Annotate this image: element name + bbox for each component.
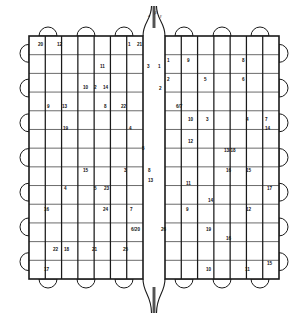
callout-number: 15	[246, 168, 252, 173]
callout-number: 7	[130, 207, 133, 212]
tab-left-6	[20, 218, 29, 236]
callout-number: 17	[44, 267, 50, 272]
callout-number: 22	[121, 104, 127, 109]
label-gamma: γ	[160, 13, 162, 18]
tab-right-5	[279, 183, 288, 201]
callout-number: 11	[186, 181, 191, 186]
callout-number: 5	[142, 146, 145, 151]
callout-number: 9	[47, 104, 50, 109]
callout-number: 4	[64, 186, 67, 191]
callout-number: 22	[53, 247, 59, 252]
tab-right-3	[279, 114, 288, 132]
callout-number: 19	[206, 227, 212, 232]
tab-right-2	[279, 79, 288, 97]
callout-number: 10	[83, 85, 89, 90]
callout-number: 14	[208, 198, 214, 203]
channel-top-left-wall	[143, 6, 152, 36]
callout-number: 13	[148, 178, 154, 183]
panels-layer	[29, 36, 279, 279]
callout-number: 20	[38, 42, 44, 47]
callout-number: 8	[242, 58, 245, 63]
callout-number: 17	[267, 186, 273, 191]
tab-left-1	[20, 44, 29, 62]
tab-left-5	[20, 183, 29, 201]
tab-right-4	[279, 149, 288, 167]
callout-number: 15	[83, 168, 89, 173]
callout-number: 6/7	[176, 104, 183, 109]
callout-number: 6/20	[131, 227, 140, 232]
tab-left-4	[20, 149, 29, 167]
tab-top-right-3	[251, 27, 269, 36]
tab-top-right-1	[175, 27, 193, 36]
callout-number: 25	[123, 247, 129, 252]
callout-number: 19	[63, 126, 69, 131]
tab-left-2	[20, 79, 29, 97]
callout-number: 21	[92, 247, 98, 252]
tab-right-1	[279, 44, 288, 62]
tab-top-right-2	[213, 27, 231, 36]
callout-number: 8	[104, 104, 107, 109]
callout-number: 14	[265, 126, 271, 131]
callout-number: 8	[148, 168, 151, 173]
left-panel-outline	[29, 36, 143, 279]
callout-number: 5	[94, 186, 97, 191]
callout-number: 13	[62, 104, 68, 109]
callout-number: 13/18	[224, 148, 236, 153]
tab-top-left-3	[115, 27, 133, 36]
callout-number: 12	[57, 42, 63, 47]
callout-number: 24	[103, 207, 109, 212]
callout-number: 5	[204, 77, 207, 82]
callout-number: 16	[226, 168, 232, 173]
callout-number: 23	[104, 186, 110, 191]
callout-number: 3	[147, 64, 150, 69]
right-panel-outline	[165, 36, 279, 279]
callout-number: 1	[128, 42, 131, 47]
callout-number: 2	[94, 85, 97, 90]
callout-number: 26	[161, 227, 167, 232]
tab-top-left-2	[77, 27, 95, 36]
center-channel-layer	[143, 6, 165, 313]
tab-bottom-right-3	[251, 279, 269, 288]
callout-number: 1	[158, 64, 161, 69]
tab-bottom-right-2	[213, 279, 231, 288]
tab-bottom-left-3	[115, 279, 133, 288]
callout-number: 3	[206, 117, 209, 122]
callout-number: 9	[187, 58, 190, 63]
callout-number: 7	[265, 117, 268, 122]
tab-right-7	[279, 253, 288, 271]
callout-number: 16	[44, 207, 50, 212]
callout-number: 4	[129, 126, 132, 131]
callout-number: 10	[188, 117, 194, 122]
tab-left-3	[20, 114, 29, 132]
callout-number: 11	[100, 64, 105, 69]
patent-figure-container: 201212111311981021425629138226/719410347…	[0, 0, 308, 323]
tab-bottom-right-1	[175, 279, 193, 288]
callout-number: 18	[64, 247, 70, 252]
callout-number: 15	[267, 261, 273, 266]
callout-number: 10	[206, 267, 212, 272]
callout-number: 12	[188, 139, 194, 144]
channel-bottom-left-wall	[143, 279, 152, 313]
callout-number: 3	[124, 168, 127, 173]
callout-number: 2	[159, 86, 162, 91]
patent-figure-drawing: 201212111311981021425629138226/719410347…	[0, 0, 308, 323]
callout-number: 2	[167, 77, 170, 82]
callout-number: 12	[246, 207, 252, 212]
callout-number: 11	[245, 267, 250, 272]
channel-bottom-right-wall	[157, 279, 166, 313]
callout-number: 16	[226, 236, 232, 241]
callout-number: 21	[137, 42, 143, 47]
callout-number: 6	[242, 77, 245, 82]
callout-number: 14	[103, 85, 109, 90]
tab-bottom-left-2	[77, 279, 95, 288]
label-alpha: a	[148, 13, 150, 18]
callout-number: 4	[246, 117, 249, 122]
callout-number: 9	[186, 207, 189, 212]
tab-left-7	[20, 253, 29, 271]
tab-bottom-left-1	[39, 279, 57, 288]
callout-number: 1	[167, 58, 170, 63]
tab-right-6	[279, 218, 288, 236]
tab-top-left-1	[39, 27, 57, 36]
channel-top-right-wall	[157, 6, 166, 36]
